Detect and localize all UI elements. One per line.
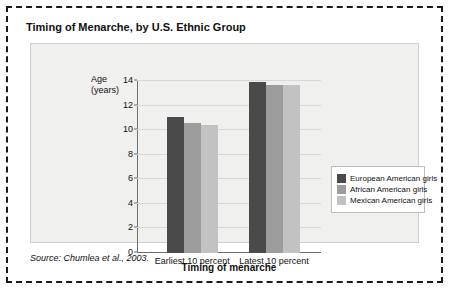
y-tick-mark <box>134 202 137 203</box>
legend-item: African American girls <box>337 185 420 194</box>
dashed-border-frame: Timing of Menarche, by U.S. Ethnic Group… <box>6 6 443 283</box>
bar <box>184 123 201 253</box>
y-tick-label: 4 <box>128 198 133 208</box>
y-axis-label-line-1: Age <box>91 74 119 85</box>
legend-swatch <box>337 185 346 194</box>
y-tick-label: 8 <box>128 149 133 159</box>
y-tick-label: 14 <box>123 75 133 85</box>
axis-area: 02468101214 Earliest 10 percentLatest 10… <box>137 80 321 253</box>
bar <box>249 82 266 253</box>
plot-area: Age (years) 02468101214 Earliest 10 perc… <box>30 43 419 243</box>
y-tick-mark <box>134 104 137 105</box>
bar <box>266 85 283 253</box>
legend-swatch <box>337 174 346 183</box>
figure-panel: Timing of Menarche, by U.S. Ethnic Group… <box>18 17 431 274</box>
y-tick-mark <box>134 227 137 228</box>
y-tick-label: 6 <box>128 173 133 183</box>
legend-item: European American girls <box>337 174 420 183</box>
legend-label: African American girls <box>350 185 427 194</box>
y-tick-label: 2 <box>128 222 133 232</box>
figure-title: Timing of Menarche, by U.S. Ethnic Group <box>26 21 246 33</box>
x-axis-title: Timing of menarche <box>137 262 321 273</box>
chart-legend: European American girlsAfrican American … <box>331 166 425 213</box>
bar <box>167 117 184 253</box>
legend-label: Mexican American girls <box>350 196 432 205</box>
y-tick-mark <box>134 129 137 130</box>
y-tick-mark <box>134 80 137 81</box>
y-axis-label: Age (years) <box>91 74 119 96</box>
y-tick-mark <box>134 178 137 179</box>
source-note: Source: Chumlea et al., 2003. <box>30 253 149 263</box>
legend-item: Mexican American girls <box>337 196 420 205</box>
bar <box>283 85 300 253</box>
legend-swatch <box>337 196 346 205</box>
legend-label: European American girls <box>350 174 437 183</box>
y-tick-label: 10 <box>123 124 133 134</box>
y-tick-mark <box>134 153 137 154</box>
bar <box>201 125 218 253</box>
y-tick-label: 12 <box>123 100 133 110</box>
y-axis-label-line-2: (years) <box>91 85 119 96</box>
gridline <box>137 80 321 81</box>
